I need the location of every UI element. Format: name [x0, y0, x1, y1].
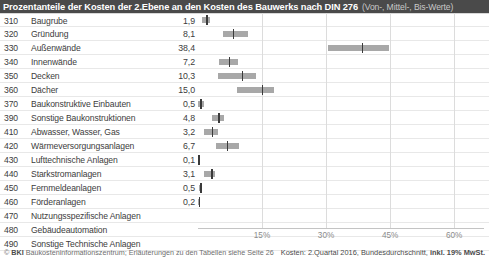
footer-right-strong: inkl. 19% MwSt.	[430, 248, 485, 257]
chart-plot-area: 15%30%45%60%	[198, 13, 484, 245]
range-bar	[198, 13, 484, 27]
range-bar	[198, 139, 484, 153]
median-marker	[206, 15, 207, 25]
row-code: 450	[4, 183, 28, 193]
page-title: Prozentanteile der Kosten der 2.Ebene an…	[3, 2, 358, 12]
median-marker	[200, 183, 201, 193]
median-marker	[229, 57, 230, 67]
median-marker	[198, 155, 199, 165]
row-code: 470	[4, 211, 28, 221]
row-code: 330	[4, 43, 28, 53]
footer-source-note: © BKI Baukosteninformationszentrum; Erlä…	[4, 248, 274, 257]
row-label: Starkstromanlagen	[31, 169, 101, 179]
range-bar-span	[223, 31, 249, 37]
footer-brand: BKI	[11, 248, 23, 257]
x-axis-tick-label: 45%	[382, 231, 398, 240]
range-bar	[198, 111, 484, 125]
row-code: 340	[4, 57, 28, 67]
row-value: 0,5	[150, 99, 195, 109]
row-value: 3,1	[150, 169, 195, 179]
range-bar-span	[204, 171, 215, 177]
row-value: 10,3	[150, 71, 195, 81]
row-code: 440	[4, 169, 28, 179]
median-marker	[199, 197, 200, 207]
median-marker	[211, 169, 212, 179]
range-bar-span	[328, 45, 389, 51]
row-value: 1,9	[150, 16, 195, 26]
copyright-icon: ©	[4, 248, 9, 257]
range-bar	[198, 55, 484, 69]
x-axis-line	[198, 228, 484, 229]
row-label: Wärmeversorgungsanlagen	[31, 141, 134, 151]
median-marker	[233, 29, 234, 39]
row-label: Baugrube	[31, 16, 67, 26]
range-bar	[198, 125, 484, 139]
footer-cost-note: Kosten: 2.Quartal 2016, Bundesdurchschni…	[281, 248, 485, 257]
footer-left-text: Baukosteninformationszentrum; Erläuterun…	[26, 248, 274, 257]
range-bar	[198, 27, 484, 41]
row-label: Baukonstruktive Einbauten	[31, 99, 131, 109]
row-value: 0,1	[150, 155, 195, 165]
median-marker	[218, 113, 219, 123]
page-subtitle: (Von-, Mittel-, Bis-Werte)	[362, 2, 453, 12]
row-code: 430	[4, 155, 28, 165]
row-label: Förderanlagen	[31, 197, 86, 207]
row-value: 0,2	[150, 197, 195, 207]
range-bar	[198, 167, 484, 181]
x-axis-tick-label: 30%	[318, 231, 334, 240]
row-value: 38,4	[150, 43, 195, 53]
row-value: 15,0	[150, 85, 195, 95]
row-code: 320	[4, 29, 28, 39]
range-bar	[198, 195, 484, 209]
footer-right-prefix: Kosten: 2.Quartal 2016, Bundesdurchschni…	[281, 248, 428, 257]
median-marker	[227, 141, 228, 151]
range-bar-span	[237, 87, 274, 93]
x-axis-tick-label: 15%	[254, 231, 270, 240]
row-label: Decken	[31, 71, 60, 81]
median-marker	[212, 127, 213, 137]
row-label: Gebäudeautomation	[31, 225, 107, 235]
row-value: 4,8	[150, 113, 195, 123]
row-code: 390	[4, 113, 28, 123]
range-bar	[198, 97, 484, 111]
row-value: 6,7	[150, 141, 195, 151]
row-label: Lufttechnische Anlagen	[31, 155, 118, 165]
range-bar	[198, 69, 484, 83]
row-label: Innenwände	[31, 57, 77, 67]
row-value: 8,1	[150, 29, 195, 39]
row-code: 350	[4, 71, 28, 81]
row-label: Fernmeldeanlagen	[31, 183, 101, 193]
row-code: 370	[4, 99, 28, 109]
range-bar	[198, 83, 484, 97]
range-bar	[198, 41, 484, 55]
row-label: Sonstige Baukonstruktionen	[31, 113, 135, 123]
median-marker	[200, 99, 201, 109]
row-code: 360	[4, 85, 28, 95]
row-code: 480	[4, 225, 28, 235]
row-value: 7,2	[150, 57, 195, 67]
row-code: 420	[4, 141, 28, 151]
row-code: 310	[4, 16, 28, 26]
row-label: Nutzungsspezifische Anlagen	[31, 211, 141, 221]
chart-title-bar: Prozentanteile der Kosten der 2.Ebene an…	[0, 0, 489, 13]
row-label: Gründung	[31, 29, 68, 39]
range-bar-span	[218, 73, 256, 79]
row-label: Außenwände	[31, 43, 81, 53]
range-bar	[198, 153, 484, 167]
row-value: 0,5	[150, 183, 195, 193]
median-marker	[362, 43, 363, 53]
range-bar	[198, 181, 484, 195]
row-code: 460	[4, 197, 28, 207]
row-label: Abwasser, Wasser, Gas	[31, 127, 120, 137]
median-marker	[262, 85, 263, 95]
median-marker	[242, 71, 243, 81]
x-axis-tick-label: 60%	[446, 231, 462, 240]
row-code: 410	[4, 127, 28, 137]
row-label: Dächer	[31, 85, 58, 95]
chart-page: Prozentanteile der Kosten der 2.Ebene an…	[0, 0, 489, 263]
chart-footer: © BKI Baukosteninformationszentrum; Erlä…	[0, 248, 489, 263]
row-value: 3,2	[150, 127, 195, 137]
